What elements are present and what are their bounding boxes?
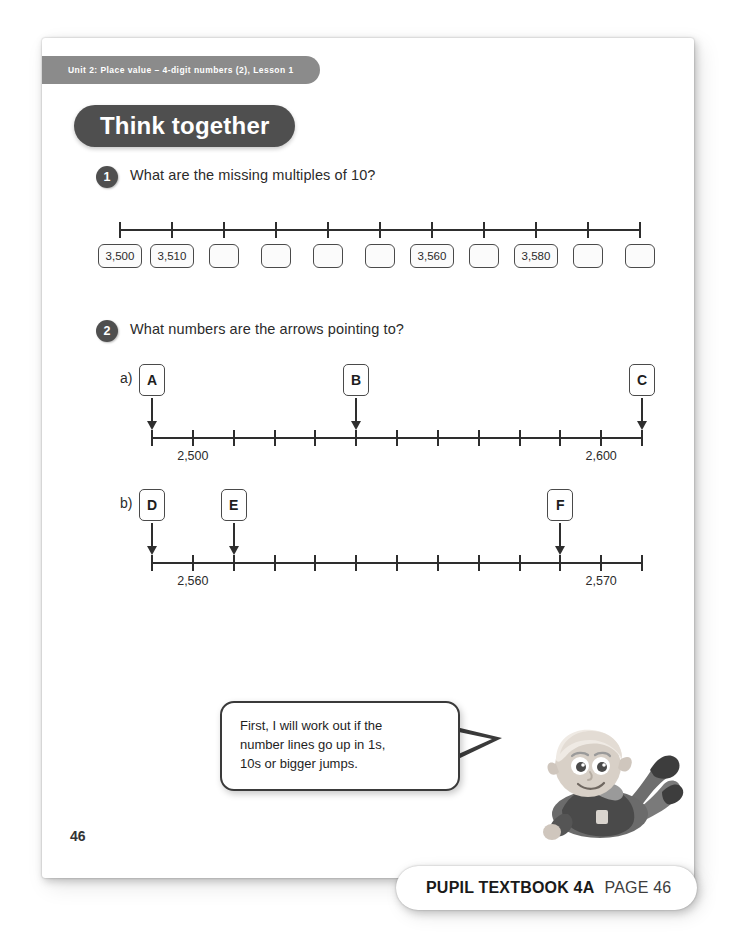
q2a-tick (600, 430, 602, 446)
q2a-tick (314, 430, 316, 446)
q2a-axis-label: 2,500 (177, 449, 208, 463)
q2a-arrow-a (151, 398, 153, 422)
q2a-arrow-tag-b[interactable]: B (343, 364, 369, 396)
q2a-tick (233, 430, 235, 446)
q1-tick (327, 222, 329, 238)
q2b-tick (274, 555, 276, 571)
speech-line-1: First, I will work out if the (240, 717, 442, 736)
q2a-tick (437, 430, 439, 446)
q2b-axis-label: 2,570 (586, 574, 617, 588)
q1-tick (171, 222, 173, 238)
q1-value-boxes: 3,5003,5103,5603,580 (120, 244, 640, 270)
footer-book-label: PUPIL TEXTBOOK 4A (426, 879, 594, 897)
q2a-arrow-tag-a[interactable]: A (139, 364, 165, 396)
q1-tick (483, 222, 485, 238)
q1-value-box-filled[interactable]: 3,510 (150, 244, 194, 268)
q2b-arrow-e (233, 523, 235, 547)
footer-page-label: PAGE 46 (604, 879, 671, 897)
q2a-number-line: ABC 2,5002,600 (152, 364, 642, 467)
q2b-arrow-tags: DEF (152, 489, 642, 523)
q2a-tick (274, 430, 276, 446)
q1-tick (587, 222, 589, 238)
q2b-tick (355, 555, 357, 571)
question-2-number: 2 (96, 320, 118, 342)
q1-value-box-filled[interactable]: 3,560 (410, 244, 454, 268)
q2b-arrow-tag-f[interactable]: F (547, 489, 573, 521)
character-illustration (504, 714, 694, 854)
q2b-tick (519, 555, 521, 571)
q2b-arrow-f (559, 523, 561, 547)
q2a-arrow-tags: ABC (152, 364, 642, 398)
footer-banner: PUPIL TEXTBOOK 4A PAGE 46 (396, 866, 697, 910)
q2b-tick (600, 555, 602, 571)
q2b-arrow-tag-d[interactable]: D (139, 489, 165, 521)
speech-bubble-body: First, I will work out if the number lin… (220, 701, 460, 791)
q2a-arrow-tag-c[interactable]: C (629, 364, 655, 396)
q2a-tick (559, 430, 561, 446)
q2a-tick (478, 430, 480, 446)
screenshot-root: Unit 2: Place value – 4-digit numbers (2… (0, 0, 740, 952)
q1-value-box-empty[interactable] (261, 244, 291, 268)
q1-axis (120, 222, 640, 238)
q1-value-box-empty[interactable] (365, 244, 395, 268)
q2a-tick (151, 430, 153, 446)
question-1-text: What are the missing multiples of 10? (130, 167, 375, 183)
q2a-arrow-b (355, 398, 357, 422)
q2b-tick (233, 555, 235, 571)
q1-tick (379, 222, 381, 238)
section-title-banner: Think together (74, 105, 295, 147)
speech-bubble: First, I will work out if the number lin… (220, 701, 460, 791)
q2a-axis-label: 2,600 (586, 449, 617, 463)
q2a-axis (152, 430, 642, 446)
q1-value-box-filled[interactable]: 3,580 (514, 244, 558, 268)
q2a-arrow-c (641, 398, 643, 422)
q1-value-box-empty[interactable] (625, 244, 655, 268)
q2b-tick (151, 555, 153, 571)
q2b-tick (641, 555, 643, 571)
unit-banner: Unit 2: Place value – 4-digit numbers (2… (42, 56, 320, 84)
question-2-text: What numbers are the arrows pointing to? (130, 321, 404, 337)
part-b-label: b) (120, 495, 132, 511)
q1-tick (223, 222, 225, 238)
q1-tick (535, 222, 537, 238)
q1-value-box-empty[interactable] (573, 244, 603, 268)
q1-value-box-empty[interactable] (469, 244, 499, 268)
q2a-tick (641, 430, 643, 446)
q2b-arrow-tag-e[interactable]: E (221, 489, 247, 521)
q1-tick (119, 222, 121, 238)
speech-line-2: number lines go up in 1s, (240, 736, 442, 755)
q2a-axis-labels: 2,5002,600 (152, 449, 642, 467)
q1-value-box-empty[interactable] (313, 244, 343, 268)
q2b-tick (192, 555, 194, 571)
question-1-number: 1 (96, 166, 118, 188)
q1-value-box-filled[interactable]: 3,500 (98, 244, 142, 268)
q2b-tick (559, 555, 561, 571)
q2b-tick (437, 555, 439, 571)
q2b-arrow-d (151, 523, 153, 547)
q2b-axis-label: 2,560 (177, 574, 208, 588)
q2a-tick (519, 430, 521, 446)
q2a-tick (192, 430, 194, 446)
q1-tick (275, 222, 277, 238)
q2a-tick (355, 430, 357, 446)
q1-value-box-empty[interactable] (209, 244, 239, 268)
speech-line-3: 10s or bigger jumps. (240, 755, 442, 774)
q2b-number-line: DEF 2,5602,570 (152, 489, 642, 592)
page-number: 46 (70, 828, 86, 844)
q2b-tick (478, 555, 480, 571)
textbook-page: Unit 2: Place value – 4-digit numbers (2… (42, 38, 694, 878)
part-a-label: a) (120, 370, 132, 386)
q2b-axis (152, 555, 642, 571)
q2b-axis-labels: 2,5602,570 (152, 574, 642, 592)
q2b-tick (396, 555, 398, 571)
q2b-tick (314, 555, 316, 571)
q1-tick (431, 222, 433, 238)
q1-number-line: 3,5003,5103,5603,580 (120, 222, 640, 270)
q2a-tick (396, 430, 398, 446)
q1-tick (639, 222, 641, 238)
